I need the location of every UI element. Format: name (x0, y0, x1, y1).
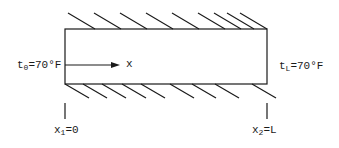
right-boundary-temperature-label: tL=70°F (279, 61, 323, 73)
left-temp-value: =70°F (28, 59, 61, 71)
x-axis-arrowhead (111, 62, 120, 68)
left-boundary-temperature-label: t0=70°F (17, 60, 61, 72)
right-temp-symbol: t (279, 60, 286, 72)
top-insulation-hatching (68, 13, 267, 29)
x-axis-label: x (126, 59, 133, 70)
right-position-value: =L (263, 124, 276, 136)
left-temp-symbol: t (17, 59, 24, 71)
rod-body (65, 29, 267, 84)
left-position-symbol: x (54, 124, 61, 136)
bottom-insulation-hatching (65, 84, 276, 98)
right-temp-value: =70°F (290, 60, 323, 72)
diagram-graphics (0, 0, 339, 148)
left-position-label: x1=0 (54, 125, 79, 137)
right-position-symbol: x (252, 124, 259, 136)
diagram-canvas: t0=70°F x tL=70°F x1=0 x2=L (0, 0, 339, 148)
left-position-value: =0 (65, 124, 78, 136)
right-position-label: x2=L (252, 125, 277, 137)
x-axis-text: x (126, 58, 133, 70)
